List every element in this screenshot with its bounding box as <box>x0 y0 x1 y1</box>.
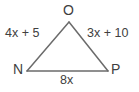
vertex-label-o: O <box>63 3 74 17</box>
side-length-label-op: 3x + 10 <box>87 27 128 40</box>
side-length-label-on: 4x + 5 <box>5 27 39 40</box>
vertex-label-p: P <box>111 62 120 76</box>
triangle-diagram: O N P 4x + 5 3x + 10 8x <box>0 0 139 92</box>
vertex-label-n: N <box>13 62 23 76</box>
side-length-label-np: 8x <box>60 74 73 87</box>
